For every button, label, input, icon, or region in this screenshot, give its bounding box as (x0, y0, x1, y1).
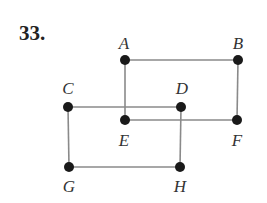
vertex-g (64, 162, 74, 172)
graph-vertices (63, 55, 243, 172)
vertex-a (120, 55, 130, 65)
graph-diagram: ABCDEFGH (0, 0, 267, 203)
vertex-label-e: E (118, 131, 130, 150)
vertex-label-b: B (233, 34, 244, 53)
vertex-h (175, 162, 185, 172)
graph-edges (68, 60, 238, 167)
vertex-c (63, 102, 73, 112)
vertex-label-h: H (173, 177, 188, 196)
vertex-f (232, 115, 242, 125)
vertex-label-g: G (63, 177, 75, 196)
vertex-label-c: C (62, 79, 74, 98)
vertex-d (176, 102, 186, 112)
edge-b-f (237, 60, 238, 120)
vertex-label-f: F (231, 131, 243, 150)
vertex-label-d: D (175, 79, 189, 98)
vertex-e (120, 115, 130, 125)
edge-c-g (68, 107, 69, 167)
vertex-b (233, 55, 243, 65)
edge-d-h (180, 107, 181, 167)
vertex-label-a: A (118, 34, 130, 53)
graph-labels: ABCDEFGH (62, 34, 243, 196)
